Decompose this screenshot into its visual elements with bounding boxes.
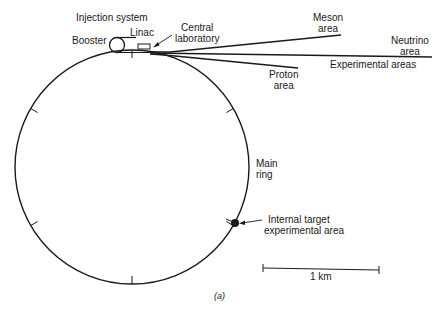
arrowhead-icon xyxy=(153,42,160,48)
label-line: area xyxy=(269,80,298,91)
label-line: area xyxy=(391,46,429,57)
label-booster: Booster xyxy=(72,35,106,46)
label-line: Central xyxy=(175,22,219,33)
label-neutrino-area: Neutrino area xyxy=(391,35,429,57)
figure-caption: (a) xyxy=(214,291,225,301)
booster-ring xyxy=(110,38,125,53)
arrowhead-icon xyxy=(239,221,245,226)
label-line: laboratory xyxy=(175,33,219,44)
internal-target-dot xyxy=(231,219,239,227)
label-line: Internal target xyxy=(264,214,344,225)
label-line: Proton xyxy=(269,69,298,80)
label-central-laboratory: Central laboratory xyxy=(175,22,219,44)
label-line: Main xyxy=(256,158,278,169)
label-linac: Linac xyxy=(130,27,154,38)
label-internal-target: Internal target experimental area xyxy=(264,214,344,236)
label-injection-system: Injection system xyxy=(76,12,148,23)
label-line: area xyxy=(313,23,343,34)
label-experimental-areas: Experimental areas xyxy=(330,59,416,70)
label-main-ring: Main ring xyxy=(256,158,278,180)
linac-block xyxy=(138,44,150,49)
ring-tick-marks xyxy=(31,50,234,284)
label-line: ring xyxy=(256,169,278,180)
label-line: experimental area xyxy=(264,225,344,236)
label-proton-area: Proton area xyxy=(269,69,298,91)
diagram-canvas xyxy=(0,0,446,314)
label-line: Neutrino xyxy=(391,35,429,46)
label-scale-bar: 1 km xyxy=(310,271,332,282)
main-ring xyxy=(15,50,249,284)
label-meson-area: Meson area xyxy=(313,12,343,34)
label-line: Meson xyxy=(313,12,343,23)
